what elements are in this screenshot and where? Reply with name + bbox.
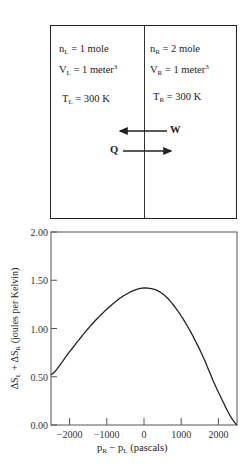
- svg-text:0: 0: [142, 429, 147, 440]
- svg-text:2.00: 2.00: [31, 227, 49, 238]
- svg-text:0.50: 0.50: [31, 372, 49, 383]
- entropy-curve: [51, 288, 237, 425]
- svg-text:−2000: −2000: [57, 429, 83, 440]
- svg-text:1.00: 1.00: [31, 324, 49, 335]
- arrows-and-chart: −2000−10000100020000.000.501.001.502.00: [0, 0, 250, 474]
- plot-frame: [51, 232, 237, 425]
- tick-labels: −2000−10000100020000.000.501.001.502.00: [31, 227, 229, 440]
- x-axis-label: pR − pL (pascals): [97, 442, 168, 455]
- svg-text:−1000: −1000: [94, 429, 120, 440]
- svg-text:1.50: 1.50: [31, 275, 49, 286]
- axis-ticks: [51, 232, 218, 425]
- svg-text:1000: 1000: [171, 429, 191, 440]
- svg-text:2000: 2000: [208, 429, 228, 440]
- svg-text:0.00: 0.00: [31, 420, 49, 431]
- y-axis-label: ΔSL + ΔSR (joules per Kelvin): [9, 254, 22, 404]
